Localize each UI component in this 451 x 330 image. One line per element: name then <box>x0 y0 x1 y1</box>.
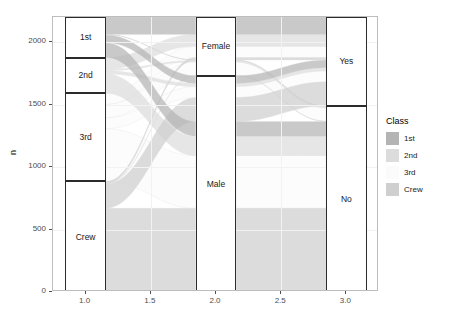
stratum-female[interactable]: Female <box>196 17 236 76</box>
y-tick-label: 500 <box>14 224 46 233</box>
stratum-male[interactable]: Male <box>196 76 236 291</box>
stratum-crew[interactable]: Crew <box>65 181 105 291</box>
stratum-label: No <box>341 194 352 204</box>
stratum-3rd[interactable]: 3rd <box>65 93 105 181</box>
stratum-yes[interactable]: Yes <box>326 17 366 106</box>
plot-panel: 1st2nd3rdCrewFemaleMaleYesNo <box>52 16 378 291</box>
y-tick-label: 1000 <box>14 161 46 170</box>
stratum-label: Crew <box>76 232 96 242</box>
legend-item-label: Crew <box>404 185 423 194</box>
y-tick-mark <box>49 291 52 292</box>
x-tick-label: 2.5 <box>260 296 300 305</box>
stratum-2nd[interactable]: 2nd <box>65 58 105 94</box>
legend: Class 1st2nd3rdCrew <box>386 116 448 199</box>
y-tick-label: 0 <box>14 286 46 295</box>
x-tick-label: 1.0 <box>65 296 105 305</box>
legend-items: 1st2nd3rdCrew <box>386 131 448 197</box>
panel-inner: 1st2nd3rdCrewFemaleMaleYesNo <box>53 17 377 290</box>
legend-key-swatch <box>386 166 399 179</box>
x-tick-label: 3.0 <box>325 296 365 305</box>
y-tick-label: 2000 <box>14 36 46 45</box>
legend-title: Class <box>386 116 448 126</box>
gridline-vertical <box>281 17 282 290</box>
legend-item-crew[interactable]: Crew <box>386 182 448 197</box>
x-tick-mark <box>215 291 216 294</box>
legend-key-swatch <box>386 149 399 162</box>
stratum-label: Yes <box>339 56 353 66</box>
stratum-label: Male <box>207 179 225 189</box>
stratum-no[interactable]: No <box>326 106 366 291</box>
alluvial-plot-root: n 0500100015002000 1.01.52.02.53.0 1st2n… <box>0 0 451 330</box>
x-tick-mark <box>345 291 346 294</box>
x-tick-mark <box>280 291 281 294</box>
legend-key-swatch <box>386 183 399 196</box>
x-tick-label: 2.0 <box>195 296 235 305</box>
legend-key-swatch <box>386 132 399 145</box>
legend-item-label: 3rd <box>404 168 416 177</box>
x-tick-label: 1.5 <box>130 296 170 305</box>
y-axis-title: n <box>8 150 18 155</box>
y-tick-label: 1500 <box>14 99 46 108</box>
x-tick-mark <box>85 291 86 294</box>
legend-item-label: 1st <box>404 134 415 143</box>
legend-item-2nd[interactable]: 2nd <box>386 148 448 163</box>
legend-item-3rd[interactable]: 3rd <box>386 165 448 180</box>
gridline-vertical <box>151 17 152 290</box>
legend-item-1st[interactable]: 1st <box>386 131 448 146</box>
legend-item-label: 2nd <box>404 151 417 160</box>
x-tick-mark <box>150 291 151 294</box>
stratum-label: Female <box>202 41 230 51</box>
stratum-label: 2nd <box>78 70 92 80</box>
stratum-label: 3rd <box>79 132 91 142</box>
stratum-1st[interactable]: 1st <box>65 17 105 58</box>
stratum-label: 1st <box>80 32 91 42</box>
